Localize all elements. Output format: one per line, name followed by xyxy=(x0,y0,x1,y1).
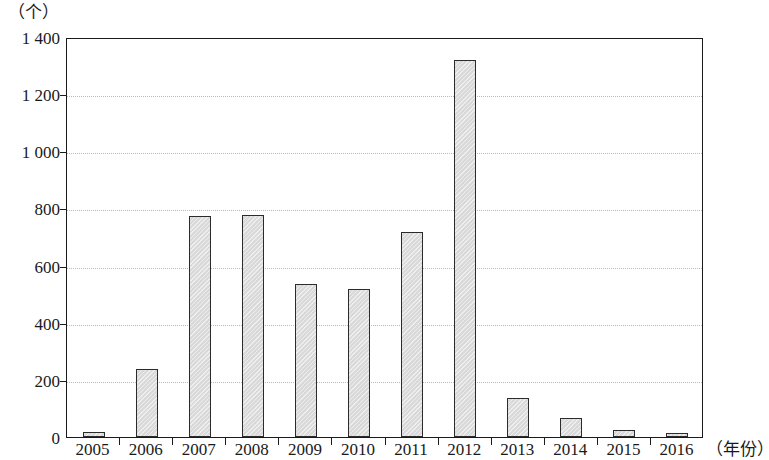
x-tick-label-2007: 2007 xyxy=(182,440,216,460)
bar-2016 xyxy=(666,433,688,437)
bars-layer xyxy=(67,39,702,437)
bar-2007 xyxy=(189,216,211,437)
x-tick-mark xyxy=(331,438,332,445)
y-tick-label: 1 200 xyxy=(2,87,60,104)
y-tick-label: 1 000 xyxy=(2,144,60,161)
y-tick-label: 400 xyxy=(2,315,60,332)
bar-2008 xyxy=(242,215,264,437)
bar-2011 xyxy=(401,232,423,437)
bar-2013 xyxy=(507,398,529,437)
bar-2006 xyxy=(136,369,158,437)
bar-2010 xyxy=(348,289,370,437)
y-tick-label: 600 xyxy=(2,258,60,275)
y-axis-tick-labels: 02004006008001 0001 2001 400 xyxy=(0,0,60,460)
bar-2014 xyxy=(560,418,582,437)
x-tick-mark xyxy=(544,438,545,445)
x-tick-label-2012: 2012 xyxy=(447,440,481,460)
y-tick-label: 200 xyxy=(2,372,60,389)
bar-2005 xyxy=(83,432,105,437)
x-tick-mark xyxy=(172,438,173,445)
bar-chart: （个） 02004006008001 0001 2001 400 2005200… xyxy=(0,0,769,460)
bar-2009 xyxy=(295,284,317,437)
x-tick-label-2016: 2016 xyxy=(659,440,693,460)
x-tick-mark xyxy=(278,438,279,445)
x-tick-label-2010: 2010 xyxy=(341,440,375,460)
y-tick-label: 800 xyxy=(2,201,60,218)
x-tick-label-2015: 2015 xyxy=(606,440,640,460)
y-tick-label: 1 400 xyxy=(2,30,60,47)
x-tick-mark xyxy=(119,438,120,445)
x-tick-mark xyxy=(438,438,439,445)
x-tick-mark xyxy=(491,438,492,445)
x-tick-label-2014: 2014 xyxy=(553,440,587,460)
bar-2012 xyxy=(454,60,476,437)
x-tick-label-2009: 2009 xyxy=(288,440,322,460)
x-tick-mark xyxy=(225,438,226,445)
bar-2015 xyxy=(613,430,635,437)
x-tick-mark xyxy=(650,438,651,445)
x-tick-label-2006: 2006 xyxy=(129,440,163,460)
x-tick-mark xyxy=(597,438,598,445)
plot-area xyxy=(66,38,703,438)
x-tick-label-2013: 2013 xyxy=(500,440,534,460)
x-axis-title: （年份） xyxy=(706,440,769,460)
x-tick-label-2008: 2008 xyxy=(235,440,269,460)
x-tick-label-2011: 2011 xyxy=(394,440,427,460)
x-tick-mark xyxy=(385,438,386,445)
y-tick-label: 0 xyxy=(2,430,60,447)
x-tick-label-2005: 2005 xyxy=(76,440,110,460)
